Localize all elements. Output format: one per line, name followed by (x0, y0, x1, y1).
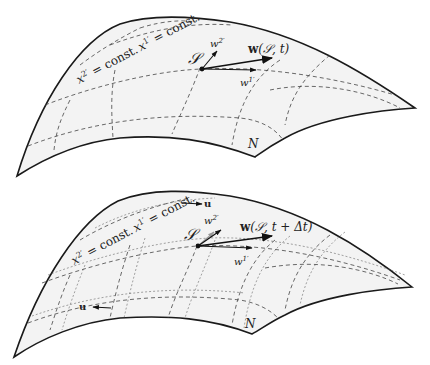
bottom-label-u-bottom: u (79, 301, 86, 312)
bottom-point-S (196, 244, 201, 249)
top-label-w: w(𝒮, t) (247, 42, 289, 56)
diagram-canvas: 𝒮 w(𝒮, t) w2′ w1′ x2′ = const.x1′ = cons… (0, 0, 430, 365)
top-point-S (200, 67, 205, 72)
bottom-label-N: N (244, 317, 256, 331)
bottom-label-w: w(𝒮, t + Δt) (239, 220, 313, 234)
bottom-panel: u u 𝒮 w(𝒮, t + Δt) w2′ w1′ x2′ = const.x… (14, 191, 412, 357)
top-label-N: N (247, 137, 259, 151)
bottom-label-u-top: u (204, 198, 211, 209)
top-panel: 𝒮 w(𝒮, t) w2′ w1′ x2′ = const.x1′ = cons… (17, 10, 415, 176)
